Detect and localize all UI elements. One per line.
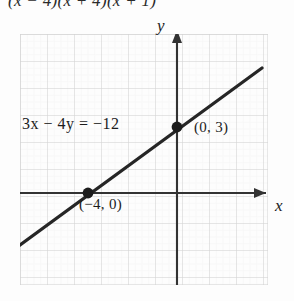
point-marker-y-intercept	[172, 122, 183, 133]
figure-page: (x − 4)(x + 4)(x + 1)	[0, 0, 294, 301]
point-label-y-intercept: (0, 3)	[194, 119, 228, 136]
graph-plate	[20, 34, 268, 285]
plotted-line	[20, 68, 262, 248]
point-label-x-intercept: (−4, 0)	[79, 196, 122, 213]
equation-annotation: 3x − 4y = −12	[22, 115, 120, 133]
x-axis-label: x	[275, 196, 283, 216]
graph-drawing	[20, 34, 268, 285]
y-axis	[172, 34, 182, 285]
top-formula-text: (x − 4)(x + 4)(x + 1)	[8, 0, 248, 13]
x-axis	[20, 188, 266, 198]
y-axis-label: y	[157, 16, 165, 36]
